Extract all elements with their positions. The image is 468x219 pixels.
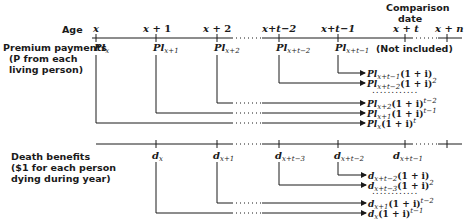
age-x-plus-1: x + 1	[143, 23, 171, 34]
age-x: x	[93, 23, 99, 34]
death-accum-x: dx(1 + i)t−1	[368, 207, 423, 219]
death-benefits-subtitle-1: ($1 for each person	[11, 162, 116, 173]
age-x-plus-2: x + 2	[203, 23, 231, 34]
death-label-xt2: dx+t−2	[334, 150, 364, 163]
premium-label-x: Plx	[94, 42, 109, 55]
premium-ellipsis: ............	[372, 85, 418, 95]
comparison-date-label-line1: Comparison	[386, 2, 450, 13]
age-x-plus-t: x + t	[393, 23, 419, 34]
premium-payments-subtitle-2: living person)	[9, 64, 83, 75]
premium-timeline	[92, 34, 462, 42]
premium-label-x1: Plx+1	[153, 42, 179, 55]
death-benefits-title: Death benefits	[11, 151, 90, 162]
death-arrows	[156, 162, 366, 213]
premium-label-xt2: Plx+t−2	[276, 42, 310, 55]
age-x-plus-t-minus-2: x+t−2	[262, 23, 296, 34]
death-label-xt3: dx+t−3	[275, 150, 305, 163]
premium-accum-x: Plx(1 + i)t	[367, 117, 416, 131]
not-included-note: (Not included)	[376, 43, 453, 54]
age-x-plus-n: x + n	[435, 23, 464, 34]
age-x-plus-t-minus-1: x+t−1	[321, 23, 355, 34]
death-label-x: dx	[152, 150, 163, 163]
death-ellipsis: ............	[372, 186, 418, 196]
premium-payments-title: Premium payments	[3, 42, 107, 53]
death-label-xt1: dx+t−1	[393, 150, 423, 163]
age-label: Age	[62, 24, 83, 35]
premium-label-x2: Plx+2	[214, 42, 240, 55]
death-label-x1: dx+1	[213, 150, 234, 163]
death-benefits-subtitle-2: dying during year)	[11, 173, 111, 184]
premium-label-xt1: Plx+t−1	[335, 42, 369, 55]
premium-payments-subtitle-1: (P from each	[9, 53, 77, 64]
premium-arrows	[96, 55, 365, 123]
death-timeline	[96, 140, 462, 148]
